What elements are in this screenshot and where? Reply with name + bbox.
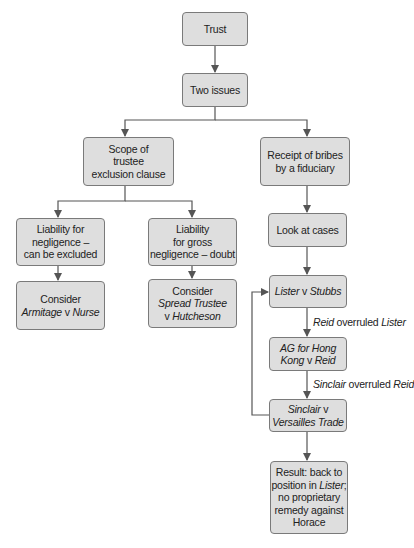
edge-text: overruled (346, 378, 393, 390)
edge-label-sinclair-overruled-reid: Sinclair overruled Reid (313, 378, 414, 390)
node-consider-spread-trustee: Consider Spread Trustee v Hutcheson (148, 279, 237, 328)
node-label-line: negligence – (32, 236, 89, 248)
versus-text: v (304, 354, 315, 366)
node-label-line: Horace (293, 516, 326, 528)
case-name: Armitage (22, 306, 62, 318)
node-two-issues: Two issues (182, 73, 248, 107)
node-liability-gross-negligence: Liability for gross negligence – doubt (148, 218, 237, 266)
case-name: Nurse (72, 306, 99, 318)
case-name: Stubbs (310, 285, 342, 297)
node-label: Two issues (190, 84, 240, 97)
edge-text: overruled (334, 316, 381, 328)
case-name: Hutcheson (172, 310, 220, 322)
node-label-line: Consider (172, 285, 212, 297)
node-label-line: exclusion clause (92, 168, 166, 180)
node-label-line: remedy against (274, 504, 343, 516)
versus-text: v (299, 285, 310, 297)
case-name: Reid (313, 316, 334, 328)
versus-text: v (62, 306, 73, 318)
node-label-line: trustee (113, 155, 144, 167)
node-consider-armitage-v-nurse: Consider Armitage v Nurse (16, 281, 105, 330)
node-look-at-cases: Look at cases (268, 213, 347, 247)
punctuation: ; (344, 479, 347, 491)
node-label-line: negligence – doubt (150, 248, 235, 260)
node-label-line: can be excluded (24, 248, 97, 260)
node-lister-v-stubbs: Lister v Stubbs (269, 275, 347, 308)
case-name: Kong (280, 354, 304, 366)
case-name: Sinclair (313, 378, 346, 390)
case-name: Sinclair (288, 403, 321, 415)
node-label-line: Liability for (37, 223, 85, 235)
node-label-line: Receipt of bribes (267, 149, 342, 161)
node-receipt-of-bribes: Receipt of bribes by a fiduciary (260, 137, 350, 186)
node-sinclair-v-versailles: Sinclair v Versailles Trade (269, 399, 347, 432)
node-trust: Trust (182, 12, 248, 46)
case-name: Versailles Trade (272, 416, 344, 428)
node-label-line: no proprietary (278, 491, 340, 503)
case-name: Lister (381, 316, 405, 328)
node-label-line: by a fiduciary (275, 162, 334, 174)
node-label-line: position in (271, 479, 319, 491)
node-ag-hong-kong-v-reid: AG for Hong Kong v Reid (269, 337, 347, 371)
node-label-line: Scope of (109, 143, 149, 155)
versus-text: v (164, 310, 172, 322)
case-name: Reid (315, 354, 336, 366)
node-result: Result: back to position in Lister; no p… (270, 461, 348, 534)
node-label-line: for gross (173, 236, 212, 248)
node-label-line: Result: back to (276, 466, 342, 478)
case-name: Spread Trustee (158, 297, 227, 309)
node-label: Trust (204, 23, 227, 36)
case-name: Lister (319, 479, 343, 491)
node-liability-negligence: Liability for negligence – can be exclud… (16, 218, 105, 266)
node-label-line: Liability (176, 223, 209, 235)
versus-text: v (321, 403, 329, 415)
case-name: AG for Hong (280, 342, 336, 354)
edge-label-reid-overruled-lister: Reid overruled Lister (313, 316, 406, 328)
node-scope-exclusion-clause: Scope of trustee exclusion clause (83, 137, 174, 186)
case-name: Lister (275, 285, 299, 297)
node-label-line: Consider (40, 293, 80, 305)
case-name: Reid (393, 378, 414, 390)
node-label: Look at cases (276, 224, 338, 237)
